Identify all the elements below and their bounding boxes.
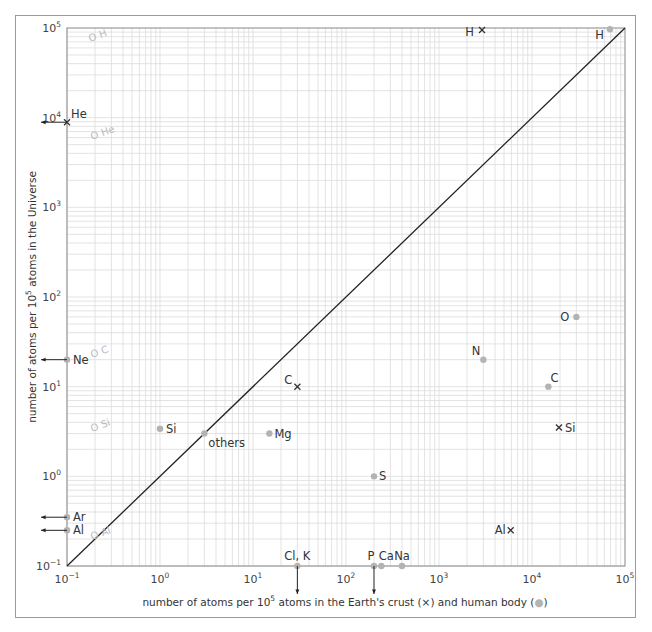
- point-label: C: [550, 371, 558, 385]
- data-point-ne: Ne: [64, 353, 89, 367]
- point-label: He: [71, 107, 87, 121]
- x-tick-label: 105: [616, 571, 635, 586]
- point-label: Ar: [73, 510, 86, 524]
- point-label: Cl, K: [284, 549, 311, 563]
- y-tick-label: 100: [42, 468, 61, 483]
- point-label: Na: [394, 549, 410, 563]
- x-axis-title: number of atoms per 105 atoms in the Ear…: [142, 594, 547, 608]
- dot-marker-icon: [157, 425, 163, 431]
- dot-marker-icon: [607, 26, 613, 32]
- point-label: P: [368, 549, 375, 563]
- scatter-chart: 10−110010110210310410510−110010110210310…: [0, 0, 652, 632]
- data-point-c: C: [284, 373, 300, 390]
- dot-legend-icon: ●: [534, 596, 543, 608]
- point-label: Mg: [274, 427, 291, 441]
- x-tick-label: 101: [244, 571, 263, 586]
- y-tick-label: 105: [42, 20, 61, 35]
- data-point-mg: Mg: [266, 427, 291, 441]
- point-label: H: [595, 28, 604, 42]
- y-tick-label: 102: [42, 289, 61, 304]
- faint-annotation: O He: [89, 123, 116, 142]
- point-label: Al: [73, 523, 84, 537]
- y-tick-label: 103: [42, 199, 61, 214]
- dot-marker-icon: [573, 314, 579, 320]
- dot-marker-icon: [201, 430, 207, 436]
- point-label: others: [208, 436, 245, 450]
- point-label: C: [284, 373, 292, 387]
- y-tick-label: 10−1: [36, 558, 61, 573]
- dot-marker-icon: [399, 563, 405, 569]
- x-tick-label: 103: [430, 571, 449, 586]
- y-axis-title: number of atoms per 105 atoms in the Uni…: [24, 171, 38, 423]
- dot-marker-icon: [371, 473, 377, 479]
- x-tick-label: 10−1: [54, 571, 79, 586]
- faint-annotation: O C: [89, 343, 110, 360]
- point-label: Ca: [379, 549, 394, 563]
- data-point-al: Al: [495, 523, 514, 537]
- point-label: N: [472, 344, 481, 358]
- dot-marker-icon: [480, 356, 486, 362]
- point-label: Al: [495, 523, 506, 537]
- x-tick-label: 102: [337, 571, 356, 586]
- point-label: Si: [166, 422, 177, 436]
- x-tick-label: 104: [523, 571, 542, 586]
- point-label: O: [560, 310, 569, 324]
- faint-annotation: O H: [87, 27, 108, 44]
- dot-marker-icon: [266, 430, 272, 436]
- point-label: H: [465, 25, 474, 39]
- point-label: Si: [565, 421, 576, 435]
- point-label: Ne: [73, 353, 89, 367]
- data-point-s: S: [371, 469, 387, 483]
- faint-annotation: O Si: [89, 417, 112, 434]
- x-tick-label: 100: [151, 571, 170, 586]
- dot-marker-icon: [378, 563, 384, 569]
- y-tick-label: 101: [42, 379, 61, 394]
- point-label: S: [379, 469, 386, 483]
